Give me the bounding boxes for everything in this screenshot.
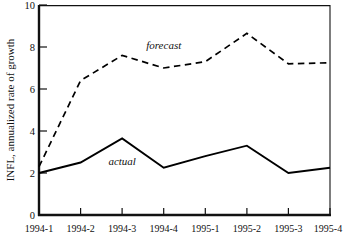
y-tick-label-6: 6 (30, 84, 35, 95)
x-tick-label-1995-1: 1995-1 (191, 223, 219, 234)
x-tick-label-1994-2: 1994-2 (66, 223, 94, 234)
y-tick-label-2: 2 (30, 168, 35, 179)
x-tick-label-1994-4: 1994-4 (150, 223, 178, 234)
chart-figure: 10 8 6 4 2 0 INFL, annualized rate of gr… (0, 0, 348, 242)
x-tick-label-1995-2: 1995-2 (233, 223, 261, 234)
y-tick-label-4: 4 (30, 126, 36, 137)
inflation-forecast-line-chart: 10 8 6 4 2 0 INFL, annualized rate of gr… (0, 0, 348, 242)
x-tick-label-1995-3: 1995-3 (274, 223, 302, 234)
annotation-forecast: forecast (146, 39, 182, 51)
annotation-actual: actual (108, 155, 136, 167)
x-tick-label-1994-1: 1994-1 (25, 223, 53, 234)
y-axis-title: INFL, annualized rate of growth (4, 38, 16, 181)
x-tick-label-1994-3: 1994-3 (108, 223, 136, 234)
y-tick-label-10: 10 (25, 0, 36, 11)
chart-background (0, 0, 348, 242)
y-tick-label-8: 8 (30, 42, 35, 53)
x-tick-label-1995-4: 1995-4 (314, 223, 342, 234)
y-tick-label-0: 0 (30, 210, 35, 221)
